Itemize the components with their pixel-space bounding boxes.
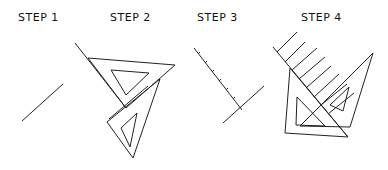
given-line-ref <box>109 86 148 119</box>
perpendicular-line <box>194 48 242 110</box>
set-square-1-inner <box>111 70 149 95</box>
set-square-2 <box>107 79 160 158</box>
step-2-drawing <box>75 43 175 158</box>
step-3-drawing <box>194 48 264 123</box>
step-4-drawing <box>273 32 373 137</box>
set-square-2-inner <box>121 113 137 147</box>
parallel-hatch-lines <box>277 32 354 114</box>
diagram-canvas <box>0 0 388 170</box>
step-1-drawing <box>22 84 63 121</box>
tick-marks <box>198 52 235 99</box>
given-line <box>22 84 63 121</box>
set-square-1-inner <box>296 97 325 126</box>
given-line <box>223 86 264 123</box>
set-square-2 <box>300 53 373 127</box>
